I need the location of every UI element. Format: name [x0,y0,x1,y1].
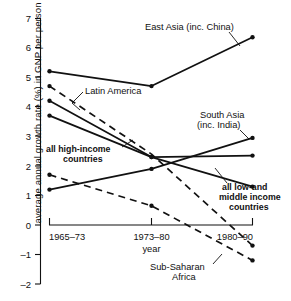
data-point [250,35,254,39]
y-tick-label-5: 5 [26,72,31,83]
data-point [250,243,254,247]
annotation-high-income-line2: countries [63,154,103,164]
data-point [250,153,254,157]
y-tick-label-4: 4 [26,101,31,112]
y-tick-label-2: 2 [26,161,31,172]
data-point [47,173,51,177]
annotation-low-middle-line3: countries [229,202,269,212]
y-tick-label-6: 6 [26,42,31,53]
data-point [47,84,51,88]
x-tick-label-1980-90: 1980–90 [217,232,253,242]
x-axis-title: year [142,244,160,254]
data-point [47,187,51,191]
annotation-sub-saharan-line1: Sub-Saharan [150,262,205,272]
x-tick-label-1973-80: 1973–80 [133,232,169,242]
annotation-low-middle-line1: all low-and [222,182,267,192]
y-tick-label-3: 3 [26,131,31,142]
x-tick-label-1965-73: 1965–73 [49,232,85,242]
y-axis: 7 6 5 4 3 2 1 0 –1 –2 [20,13,40,290]
data-point [149,204,153,208]
annotation-south-asia-line2: (inc. India) [197,120,240,130]
annotation-sub-saharan-line2: Africa [172,272,197,282]
annotation-east-asia: East Asia (inc. China) [145,22,234,32]
chart-container: average annual growth rate (%) in GNP pe… [0,0,291,301]
data-point [47,99,51,103]
line-chart: 7 6 5 4 3 2 1 0 –1 –2 1965–73 1973–80 19… [0,0,291,301]
annotation-high-income-line1: all high-income [46,144,111,154]
x-axis: 1965–73 1973–80 1980–90 year [49,218,253,254]
data-point [47,113,51,117]
y-tick-label-0: 0 [26,220,31,231]
annotation-latin-america: Latin America [85,86,142,96]
series-east-asia [47,35,254,88]
data-point [149,155,153,159]
data-point [250,258,254,262]
data-point [149,84,153,88]
annotation-south-asia-line1: South Asia [200,110,245,120]
data-point [149,167,153,171]
y-tick-label-7: 7 [26,13,31,24]
y-tick-label-neg1: –1 [20,249,31,260]
annotation-low-middle-line2: middle income [219,192,281,202]
y-tick-label-neg2: –2 [20,279,31,290]
data-point [250,136,254,140]
data-point [47,69,51,73]
y-tick-label-1: 1 [26,190,31,201]
